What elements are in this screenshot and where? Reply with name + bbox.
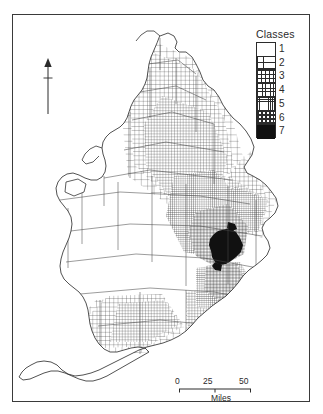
legend-label-column: 1 2 3 4 5 6 7	[279, 42, 303, 138]
scale-bar-ticks: 0 25 50	[175, 376, 267, 387]
scale-tick-0: 0	[175, 376, 180, 386]
legend-swatch-2	[257, 57, 275, 71]
legend-swatch-column	[256, 42, 276, 138]
legend-label-7: 7	[279, 124, 303, 138]
north-west-coast-trace	[82, 146, 102, 164]
legend-label-5: 5	[279, 97, 303, 111]
border-trace	[136, 31, 160, 41]
legend-swatch-4	[257, 84, 275, 98]
legend-label-4: 4	[279, 83, 303, 97]
legend-label-6: 6	[279, 111, 303, 125]
legend-swatch-5	[257, 98, 275, 112]
scale-bar-caption: Miles	[191, 393, 251, 403]
legend-body: 1 2 3 4 5 6 7	[255, 42, 305, 140]
legend-swatch-6	[257, 112, 275, 126]
legend: Classes 1 2 3 4 5 6 7	[255, 28, 307, 142]
scale-tick-25: 25	[203, 376, 212, 386]
scale-tick-50: 50	[239, 376, 248, 386]
legend-swatch-7	[257, 125, 275, 139]
map-figure: Classes 1 2 3 4 5 6 7	[0, 0, 323, 414]
north-arrow	[38, 57, 58, 115]
legend-label-2: 2	[279, 56, 303, 70]
legend-label-3: 3	[279, 69, 303, 83]
legend-label-1: 1	[279, 42, 303, 56]
legend-title: Classes	[256, 28, 307, 40]
legend-swatch-1	[257, 43, 275, 57]
scale-bar: 0 25 50 Miles	[175, 376, 267, 402]
legend-swatch-3	[257, 70, 275, 84]
